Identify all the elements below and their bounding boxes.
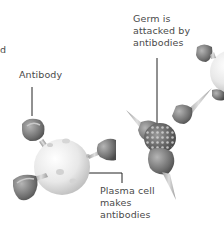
- plasma-cell-label: Plasma cell makes antibodies: [100, 185, 155, 221]
- antibody-icon: [196, 45, 212, 63]
- antibody-icon: [172, 104, 192, 124]
- plasma-cell-right-partial: [196, 45, 224, 101]
- antibody-label: Antibody: [19, 69, 62, 81]
- germ-label: Germ is attacked by antibodies: [133, 13, 190, 49]
- antibody-icon: [148, 148, 174, 174]
- antibody-icon: [212, 89, 224, 100]
- germ-group: [126, 88, 212, 200]
- partial-label-left: d: [0, 44, 6, 56]
- antibody-icon: [88, 139, 116, 161]
- antibody-stalk: [162, 172, 176, 200]
- antibody-icon: [22, 119, 48, 149]
